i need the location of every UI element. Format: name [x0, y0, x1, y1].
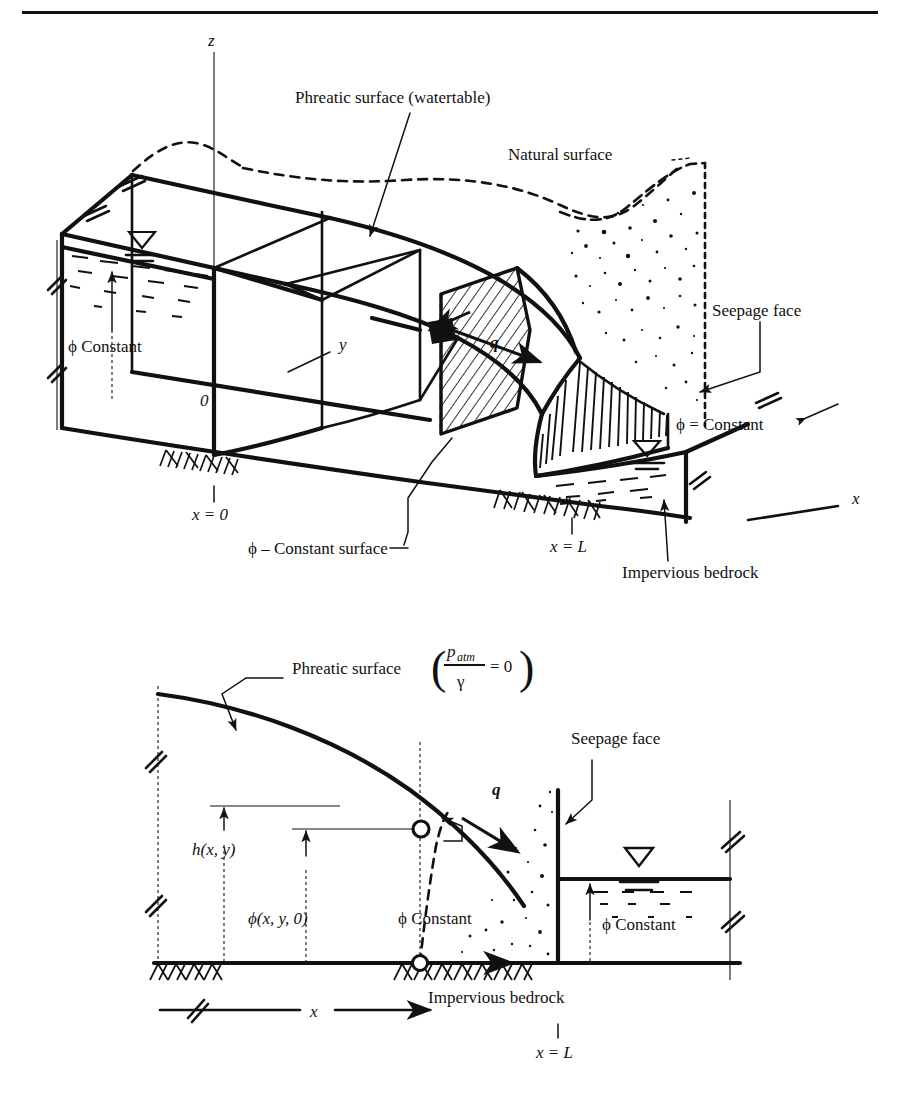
- soil-stipple-bottom: [461, 791, 553, 956]
- label-impervious-bedrock-top: Impervious bedrock: [622, 563, 759, 582]
- dimension-phi: [292, 829, 420, 963]
- node-phreatic-circle: [413, 821, 429, 837]
- break-symbols-bottom-left: [146, 752, 166, 916]
- bedrock-hatch-bottom-left: [150, 964, 222, 980]
- label-h-x-y: h(x, y): [192, 840, 236, 859]
- technical-diagram-svg: z: [0, 0, 900, 1094]
- fraction-equals-zero: = 0: [490, 657, 512, 676]
- label-flux-q-bottom: q: [492, 780, 501, 799]
- break-symbol-pool-right: [690, 472, 710, 489]
- label-phreatic-prefix-bottom: Phreatic surface: [292, 659, 401, 678]
- label-phi-constant-left: ϕ Constant: [68, 337, 142, 356]
- label-phi-constant-surface: ϕ – Constant surface: [248, 539, 388, 558]
- phi-constant-surface-panel: [441, 268, 530, 434]
- z-axis-label: z: [207, 31, 215, 50]
- label-impervious-bedrock-bottom: Impervious bedrock: [428, 988, 565, 1007]
- water-surface-dashes: [556, 475, 666, 504]
- break-symbols-top-left: [84, 176, 145, 221]
- paren-open: (: [431, 642, 446, 693]
- phreatic-surface-curve: [158, 694, 524, 906]
- label-x-zero: x = 0: [191, 505, 229, 524]
- fraction-numerator: p: [446, 642, 456, 661]
- aquifer-block-wireframe: [48, 175, 781, 522]
- figure-container: z: [0, 0, 900, 1094]
- label-phi-constant-right-bottom: ϕ Constant: [602, 915, 676, 934]
- label-phi-x-y-0: ϕ(x, y, 0): [248, 909, 308, 928]
- label-phreatic-surface: Phreatic surface (watertable): [295, 88, 490, 107]
- label-seepage-face-bottom: Seepage face: [571, 729, 660, 748]
- paren-close: ): [519, 642, 534, 693]
- flux-arrow-q-bottom: [462, 818, 518, 852]
- label-x-equals-L-bottom: x = L: [535, 1043, 573, 1062]
- bottom-diagram: Phreatic surface ( p atm γ = 0 ) h(x, y)…: [146, 642, 744, 1062]
- node-base-circle: [413, 956, 428, 971]
- break-symbols-bottom-right: [722, 832, 744, 932]
- label-phi-constant-mid-bottom: ϕ Constant: [398, 909, 472, 928]
- top-diagram: z: [48, 31, 860, 582]
- fraction-numerator-subscript: atm: [457, 650, 475, 664]
- label-flux-q-top: q: [490, 333, 499, 352]
- fraction-denominator: γ: [456, 672, 465, 691]
- label-x-equals-L-top: x = L: [549, 537, 587, 556]
- label-seepage-face-top: Seepage face: [712, 301, 801, 320]
- natural-ground-stipple-block: [560, 163, 705, 426]
- label-origin-zero: 0: [200, 391, 209, 410]
- downstream-water-pool: [536, 424, 748, 522]
- label-natural-surface: Natural surface: [508, 145, 612, 164]
- label-phi-equals-constant-right: ϕ = Constant: [676, 415, 764, 434]
- label-x-axis-top: x: [851, 489, 860, 508]
- label-y-axis: y: [337, 335, 347, 354]
- label-phreatic-surface-with-formula: Phreatic surface ( p atm γ = 0 ): [292, 642, 534, 693]
- upstream-water-region: [62, 232, 214, 317]
- break-symbol-right: [756, 393, 781, 408]
- water-table-triangle-icon-bottom: [620, 848, 658, 890]
- pool-water-dashes: [592, 892, 692, 917]
- label-x-axis-bottom: x: [309, 1002, 318, 1021]
